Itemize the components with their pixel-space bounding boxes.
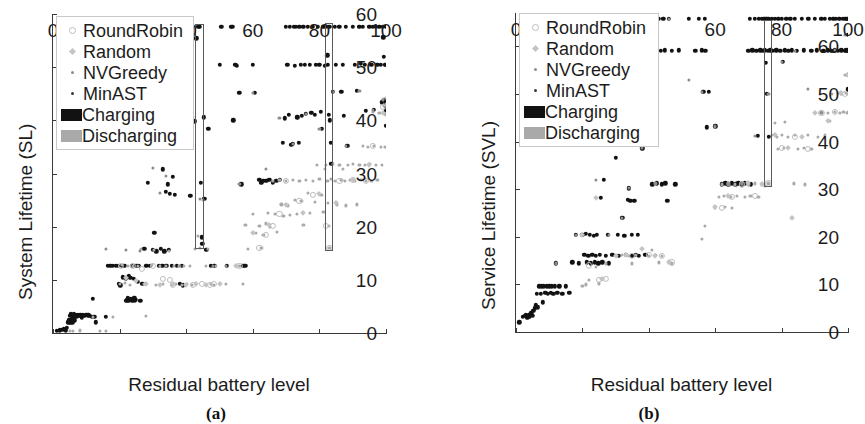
- legend-glyph: [531, 45, 538, 52]
- data-point: [275, 230, 278, 233]
- data-point: [188, 264, 191, 267]
- data-point: [281, 140, 285, 144]
- data-point: [125, 248, 128, 251]
- data-point: [845, 72, 848, 78]
- panel-a: 0204060801000102030405060 System Lifetim…: [0, 0, 432, 424]
- legend-swatch: [61, 109, 82, 121]
- data-point: [560, 292, 564, 296]
- data-point: [797, 148, 800, 151]
- data-point: [384, 96, 386, 99]
- data-point: [789, 215, 795, 221]
- data-point: [282, 214, 285, 217]
- legend-marker-swatch-icon: [524, 106, 545, 118]
- data-point: [204, 264, 207, 267]
- data-point: [295, 212, 298, 215]
- legend-marker-dot-icon: [61, 92, 83, 95]
- data-point: [302, 223, 305, 226]
- legend-row: MinAST: [61, 83, 187, 104]
- data-point: [313, 201, 316, 204]
- data-point: [351, 162, 354, 165]
- data-point: [555, 291, 559, 295]
- data-point: [105, 329, 108, 332]
- data-point: [380, 163, 383, 166]
- y-tick: [52, 333, 57, 334]
- data-point: [235, 64, 239, 68]
- legend-marker-diamond-icon: [61, 49, 83, 54]
- data-point: [265, 168, 268, 171]
- data-point: [687, 78, 690, 81]
- data-point: [339, 89, 343, 93]
- data-point: [719, 205, 725, 211]
- data-point: [358, 89, 361, 92]
- y-tick: [515, 284, 520, 285]
- figure-scatter-pair: 0204060801000102030405060 System Lifetim…: [0, 0, 865, 424]
- data-point: [594, 178, 597, 181]
- data-point: [384, 123, 386, 127]
- x-tick: [715, 328, 716, 333]
- x-tick: [649, 328, 650, 333]
- data-point: [807, 88, 810, 91]
- data-point: [586, 262, 592, 268]
- legend-glyph: [69, 27, 76, 34]
- data-point: [171, 174, 175, 178]
- y-axis-title-a: System Lifetime (SL): [16, 124, 35, 300]
- data-point: [217, 281, 223, 287]
- data-point: [607, 233, 610, 236]
- data-point: [792, 134, 798, 140]
- data-point: [289, 213, 292, 216]
- data-point: [230, 25, 234, 29]
- legend-row: Discharging: [61, 125, 187, 146]
- data-point: [753, 182, 756, 185]
- data-point: [237, 90, 241, 94]
- data-point: [267, 211, 270, 214]
- legend-row: Charging: [524, 101, 652, 122]
- y-tick-label: 60: [356, 5, 377, 24]
- data-point: [536, 305, 540, 309]
- data-point: [792, 182, 795, 185]
- data-point: [319, 110, 323, 114]
- data-point: [315, 163, 318, 166]
- data-point: [247, 247, 250, 250]
- data-point: [813, 17, 817, 21]
- data-point: [296, 198, 302, 204]
- data-point: [103, 315, 107, 319]
- x-tick-label: 80: [771, 20, 792, 39]
- data-point: [126, 264, 129, 267]
- data-point: [799, 134, 805, 140]
- y-tick: [52, 174, 57, 175]
- data-point: [338, 163, 341, 166]
- x-tick: [848, 328, 849, 333]
- data-point: [651, 249, 654, 252]
- data-point: [607, 261, 611, 265]
- y-tick-label: 0: [828, 323, 839, 342]
- legend-marker-circle-icon: [61, 27, 83, 34]
- data-point: [736, 194, 739, 197]
- data-point: [105, 247, 108, 250]
- data-point: [517, 320, 521, 324]
- data-point: [557, 284, 561, 288]
- data-point: [631, 262, 634, 265]
- data-point: [342, 114, 346, 118]
- data-point: [597, 253, 601, 257]
- legend-marker-circle-icon: [524, 24, 546, 31]
- data-point: [384, 63, 386, 67]
- data-point: [805, 146, 811, 152]
- x-tick-label: 60: [242, 21, 263, 40]
- legend-row: NVGreedy: [61, 62, 187, 83]
- x-tick: [582, 328, 583, 333]
- data-point: [300, 210, 306, 216]
- data-point: [287, 113, 291, 117]
- data-point: [251, 212, 254, 215]
- data-point: [686, 17, 690, 21]
- data-point: [846, 110, 848, 113]
- data-point: [130, 263, 136, 269]
- data-point: [382, 54, 386, 58]
- y-tick: [515, 237, 520, 238]
- data-point: [173, 193, 177, 197]
- legend-row: NVGreedy: [524, 59, 652, 80]
- data-point: [704, 125, 708, 129]
- data-point: [346, 163, 349, 166]
- data-point: [308, 63, 312, 67]
- data-point: [635, 233, 639, 237]
- data-point: [341, 63, 345, 67]
